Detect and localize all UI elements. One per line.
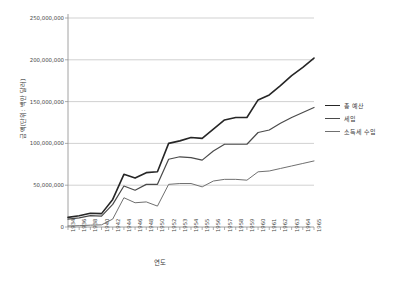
x-axis-tick-label: 1960 <box>260 219 266 232</box>
x-axis-tick-label: 1952 <box>171 219 177 232</box>
x-axis-tick-label: 1950 <box>159 219 165 232</box>
legend-label: 소득세 수입 <box>344 127 376 136</box>
legend-label: 세입 <box>344 114 356 123</box>
x-axis-tick-label: 1944 <box>126 219 132 232</box>
legend-item[interactable]: 총 예산 <box>325 99 395 112</box>
x-axis-tick-label: 1934 <box>70 219 76 232</box>
x-axis-tick-labels: 1934193619381940194219441946194819501952… <box>0 0 397 283</box>
legend-line-swatch <box>325 118 340 119</box>
legend-item[interactable]: 세입 <box>325 112 395 125</box>
legend-line-swatch <box>325 105 340 106</box>
x-axis-tick-label: 1940 <box>104 219 110 232</box>
x-axis-tick-label: 1953 <box>182 219 188 232</box>
x-axis-tick-label: 1948 <box>148 219 154 232</box>
x-axis-tick-label: 1958 <box>238 219 244 232</box>
x-axis-tick-label: 1936 <box>81 219 87 232</box>
legend-label: 총 예산 <box>344 101 364 110</box>
chart-legend: 총 예산세입소득세 수입 <box>325 99 395 138</box>
x-axis-tick-label: 1938 <box>92 219 98 232</box>
line-chart: 금액(단위: 백만 달러) 050,000,000100,000,000150,… <box>0 0 397 283</box>
legend-line-swatch <box>325 131 340 132</box>
x-axis-tick-label: 1965 <box>316 219 322 232</box>
x-axis-tick-label: 1942 <box>115 219 121 232</box>
x-axis-tick-label: 1955 <box>204 219 210 232</box>
x-axis-tick-label: 1946 <box>137 219 143 232</box>
legend-item[interactable]: 소득세 수입 <box>325 125 395 138</box>
x-axis-tick-label: 1961 <box>271 219 277 232</box>
x-axis-title: 연도 <box>0 258 320 267</box>
x-axis-tick-label: 1964 <box>305 219 311 232</box>
x-axis-tick-label: 1954 <box>193 219 199 232</box>
x-axis-tick-label: 1959 <box>249 219 255 232</box>
x-axis-tick-label: 1957 <box>227 219 233 232</box>
x-axis-tick-label: 1956 <box>215 219 221 232</box>
x-axis-tick-label: 1962 <box>282 219 288 232</box>
x-axis-tick-label: 1963 <box>294 219 300 232</box>
